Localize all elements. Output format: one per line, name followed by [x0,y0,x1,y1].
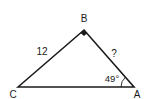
vertex-label-c: C [9,89,16,99]
vertex-label-b: B [81,13,88,24]
vertex-label-a: A [134,89,141,99]
angle-arc-a [121,77,125,87]
triangle-diagram: B C A 12 ? 49° [0,0,144,99]
side-label-ba: ? [111,48,117,59]
angle-label-a: 49° [105,73,120,84]
right-angle-marker [81,30,88,36]
side-label-cb: 12 [36,46,48,57]
